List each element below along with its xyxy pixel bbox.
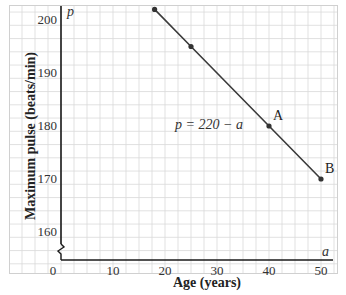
grid xyxy=(10,6,337,273)
x-tick-label: 20 xyxy=(159,263,172,278)
y-axis-variable: p xyxy=(66,4,74,19)
point-label-a: A xyxy=(273,108,284,123)
equation-label: p = 220 − a xyxy=(174,117,243,132)
chart: 01020304050160170180190200 AB Maximum pu… xyxy=(0,0,346,295)
x-axis-label: Age (years) xyxy=(173,275,241,291)
series-line xyxy=(155,9,321,179)
x-axis-variable: a xyxy=(322,244,329,259)
x-tick-label: 10 xyxy=(107,263,120,278)
point-label-b: B xyxy=(325,161,334,176)
axes xyxy=(58,6,333,260)
data-point xyxy=(188,44,193,49)
x-tick-label: 0 xyxy=(50,263,57,278)
y-axis-label: Maximum pulse (beats/min) xyxy=(23,52,39,220)
data-point xyxy=(266,123,271,128)
data-point xyxy=(318,176,323,181)
plot-frame xyxy=(10,6,338,274)
y-tick-label: 170 xyxy=(38,171,58,186)
y-tick-label: 190 xyxy=(38,65,58,80)
y-tick-label: 180 xyxy=(38,118,58,133)
y-tick-label: 200 xyxy=(38,12,58,27)
y-tick-label: 160 xyxy=(38,224,58,239)
x-tick-label: 40 xyxy=(263,263,276,278)
x-tick-label: 50 xyxy=(315,263,328,278)
data-point xyxy=(152,7,157,12)
